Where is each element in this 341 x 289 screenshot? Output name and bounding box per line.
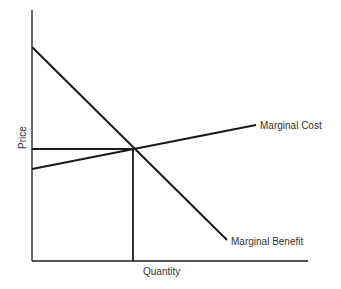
marginal-cost-line — [32, 125, 256, 169]
economics-diagram: Marginal Cost Marginal Benefit Quantity … — [0, 0, 341, 289]
marginal-cost-label: Marginal Cost — [260, 120, 322, 131]
x-axis-label: Quantity — [143, 266, 180, 277]
marginal-benefit-label: Marginal Benefit — [231, 236, 303, 247]
marginal-benefit-line — [32, 47, 227, 240]
y-axis-label: Price — [17, 126, 28, 149]
